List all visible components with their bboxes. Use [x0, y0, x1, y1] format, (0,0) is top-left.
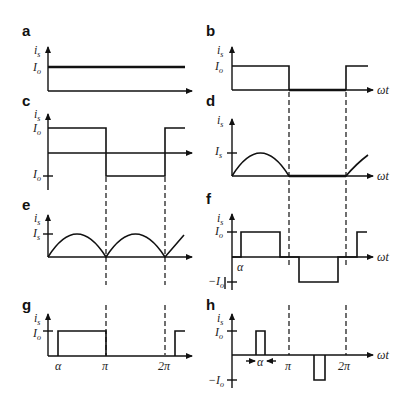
- tick-label-Io: Io: [32, 60, 41, 76]
- tick-label-2pi: 2π: [338, 359, 351, 373]
- waveform-diagram: a is Io b is Io ωt c is Io Io d is Is ω: [0, 0, 412, 404]
- tick-label-2pi: 2π: [158, 359, 171, 373]
- waveform: [48, 128, 185, 176]
- tick-label-alpha: α: [55, 359, 62, 373]
- panel-label-d: d: [206, 92, 215, 109]
- tick-label-Is: Is: [214, 144, 222, 160]
- tick-label-alpha: α: [237, 260, 244, 274]
- waveform: [232, 153, 289, 176]
- x-axis-label-wt: ωt: [377, 348, 389, 362]
- panel-f: f is Io −Io ωt α: [206, 190, 389, 290]
- panel-e: e is Is: [22, 196, 192, 257]
- x-axis-label-wt: ωt: [377, 83, 389, 97]
- panel-label-f: f: [206, 190, 212, 207]
- y-axis-label: is: [34, 311, 40, 327]
- waveform: [48, 234, 184, 257]
- tick-label-Is: Is: [32, 226, 40, 242]
- panel-h: h is Io −Io ωt α π 2π: [206, 296, 389, 389]
- y-axis-label: is: [34, 43, 40, 59]
- panel-d: d is Is ωt: [206, 92, 389, 183]
- panel-label-e: e: [22, 196, 30, 213]
- panel-b: b is Io ωt: [206, 22, 389, 97]
- panel-label-a: a: [22, 22, 31, 39]
- dashed-guides: [106, 92, 346, 355]
- tick-label-Io: Io: [214, 325, 223, 341]
- x-axis-label-wt: ωt: [377, 250, 389, 264]
- waveform: [58, 331, 106, 356]
- tick-label-Io: Io: [214, 59, 223, 75]
- panel-label-c: c: [22, 92, 30, 109]
- y-axis-label: is: [34, 211, 40, 227]
- tick-label-neg-Io: −Io: [208, 373, 224, 389]
- waveform: [232, 66, 289, 90]
- tick-label-Io: Io: [32, 121, 41, 137]
- positive-pulse: [256, 331, 265, 355]
- panel-c: c is Io Io: [22, 92, 192, 190]
- tick-label-pi: π: [102, 359, 109, 373]
- tick-label-Io-negative: Io: [32, 167, 41, 183]
- y-axis-label: is: [217, 113, 223, 129]
- panel-label-h: h: [206, 296, 215, 313]
- y-axis-label: is: [217, 43, 223, 59]
- panel-label-b: b: [206, 22, 215, 39]
- tick-label-alpha: α: [257, 355, 264, 369]
- negative-pulse: [314, 355, 325, 380]
- panel-g: g is Io α π 2π: [22, 296, 192, 373]
- tick-label-neg-Io: −Io: [208, 274, 224, 290]
- tick-label-pi: π: [285, 359, 292, 373]
- panel-a: a is Io: [22, 22, 192, 91]
- panel-label-g: g: [22, 296, 31, 313]
- tick-label-Io: Io: [32, 326, 41, 342]
- x-axis-label-wt: ωt: [377, 169, 389, 183]
